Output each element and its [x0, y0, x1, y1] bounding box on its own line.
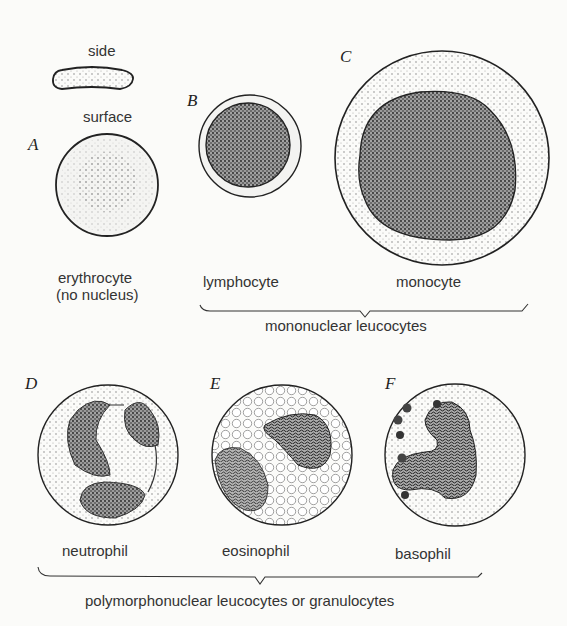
mononuclear-brace — [200, 304, 528, 317]
panel-letter-e: E — [210, 374, 220, 394]
erythrocyte-side-view — [53, 67, 133, 89]
lymphocyte-caption: lymphocyte — [203, 273, 279, 290]
neutrophil-caption: neutrophil — [62, 542, 128, 559]
panel-letter-f: F — [385, 374, 395, 394]
polymorphonuclear-brace — [38, 567, 482, 584]
blood-cells-drawing — [0, 0, 567, 626]
side-label: side — [88, 42, 116, 59]
basophil-cell — [385, 384, 525, 526]
lymphocyte-cell — [199, 95, 301, 197]
panel-letter-a: A — [28, 135, 38, 155]
monocyte-caption: monocyte — [396, 273, 461, 290]
erythrocyte-caption: erythrocyte — [58, 269, 132, 286]
panel-letter-c: C — [340, 47, 351, 67]
eosinophil-caption: eosinophil — [222, 542, 290, 559]
panel-letter-b: B — [187, 91, 197, 111]
neutrophil-cell — [38, 385, 178, 525]
surface-label: surface — [83, 108, 132, 125]
erythrocyte-caption-note: (no nucleus) — [56, 286, 139, 303]
monocyte-cell — [335, 51, 549, 265]
polymorphonuclear-group-label: polymorphonuclear leucocytes or granuloc… — [85, 592, 394, 609]
mononuclear-group-label: mononuclear leucocytes — [265, 317, 427, 334]
panel-letter-d: D — [25, 374, 37, 394]
basophil-caption: basophil — [395, 545, 451, 562]
erythrocyte-surface-view — [56, 134, 158, 236]
eosinophil-cell — [212, 385, 352, 525]
